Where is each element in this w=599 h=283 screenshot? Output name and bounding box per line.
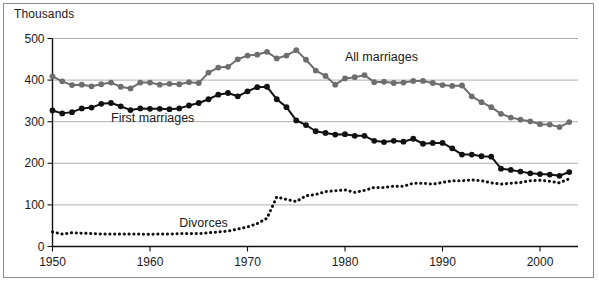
data-point xyxy=(303,57,309,63)
data-point xyxy=(557,173,563,179)
data-point xyxy=(449,83,455,89)
data-point xyxy=(89,105,95,111)
data-point xyxy=(274,56,280,62)
data-point xyxy=(284,104,290,110)
data-point xyxy=(69,109,75,115)
data-point xyxy=(527,170,533,176)
data-point xyxy=(167,81,173,87)
data-point xyxy=(186,79,192,85)
data-point xyxy=(537,171,543,177)
data-point xyxy=(274,96,280,102)
data-point xyxy=(196,80,202,86)
data-point xyxy=(323,73,329,79)
y-tick-label: 300 xyxy=(5,115,45,129)
data-point xyxy=(50,73,56,79)
data-point xyxy=(215,65,221,71)
data-point xyxy=(186,103,192,109)
data-point xyxy=(303,122,309,128)
x-tick-label: 2000 xyxy=(510,255,570,269)
x-tick-label: 1970 xyxy=(218,255,278,269)
series-line-3 xyxy=(53,179,570,235)
data-point xyxy=(440,82,446,88)
data-point xyxy=(98,81,104,87)
data-point xyxy=(323,130,329,136)
x-axis-ticks-group xyxy=(53,247,541,252)
data-point xyxy=(264,49,270,55)
data-point xyxy=(566,169,572,175)
series-label-all-marriages: All marriages xyxy=(345,50,418,64)
data-point xyxy=(245,88,251,94)
data-point xyxy=(206,96,212,102)
data-point xyxy=(469,93,475,99)
data-point xyxy=(118,84,124,90)
data-point xyxy=(362,133,368,139)
data-point xyxy=(196,100,202,106)
x-tick-label: 1950 xyxy=(23,255,83,269)
data-point xyxy=(391,138,397,144)
data-point xyxy=(410,78,416,84)
data-point xyxy=(225,64,231,70)
data-point xyxy=(128,86,134,92)
data-point xyxy=(508,167,514,173)
data-point xyxy=(108,80,114,86)
data-point xyxy=(371,138,377,144)
series-line-2 xyxy=(53,87,570,176)
data-point xyxy=(313,128,319,134)
data-point xyxy=(508,115,514,121)
data-point xyxy=(245,53,251,59)
data-point xyxy=(69,82,75,88)
data-point xyxy=(459,83,465,89)
data-point xyxy=(401,80,407,86)
data-point xyxy=(410,136,416,142)
data-point xyxy=(498,166,504,172)
data-point xyxy=(430,140,436,146)
x-tick-label: 1990 xyxy=(413,255,473,269)
data-point xyxy=(137,80,143,86)
data-point xyxy=(79,105,85,111)
data-point xyxy=(381,139,387,145)
data-point xyxy=(176,81,182,87)
data-point xyxy=(254,84,260,90)
data-point xyxy=(566,119,572,125)
data-point xyxy=(479,153,485,159)
data-point xyxy=(498,111,504,117)
data-point xyxy=(488,154,494,160)
data-point xyxy=(157,82,163,88)
y-tick-label: 0 xyxy=(5,240,45,254)
data-point xyxy=(284,53,290,59)
data-point xyxy=(254,52,260,58)
data-point xyxy=(362,72,368,78)
data-point xyxy=(50,108,56,114)
x-tick-label: 1980 xyxy=(315,255,375,269)
data-point xyxy=(488,104,494,110)
data-point xyxy=(313,68,319,74)
data-point xyxy=(332,82,338,88)
data-point xyxy=(537,121,543,127)
data-point xyxy=(371,79,377,85)
data-point xyxy=(342,131,348,137)
data-point xyxy=(59,78,65,84)
axis-lines-group xyxy=(48,39,579,247)
data-point xyxy=(118,103,124,109)
data-point xyxy=(293,118,299,124)
data-point xyxy=(459,152,465,158)
data-point xyxy=(420,141,426,147)
data-point xyxy=(352,133,358,139)
chart-plot-area xyxy=(0,0,599,283)
data-point xyxy=(98,101,104,107)
data-point xyxy=(108,100,114,106)
x-tick-label: 1960 xyxy=(120,255,180,269)
y-tick-label: 400 xyxy=(5,73,45,87)
data-point xyxy=(527,118,533,124)
data-point xyxy=(342,76,348,82)
data-point xyxy=(59,110,65,116)
data-point xyxy=(206,70,212,76)
data-point xyxy=(557,124,563,130)
data-point xyxy=(518,117,524,123)
chart-figure: Thousands 0100200300400500 1950196019701… xyxy=(0,0,599,283)
y-tick-label: 200 xyxy=(5,156,45,170)
data-point xyxy=(352,74,358,80)
data-point xyxy=(147,80,153,86)
data-point xyxy=(235,93,241,99)
data-point xyxy=(420,78,426,84)
